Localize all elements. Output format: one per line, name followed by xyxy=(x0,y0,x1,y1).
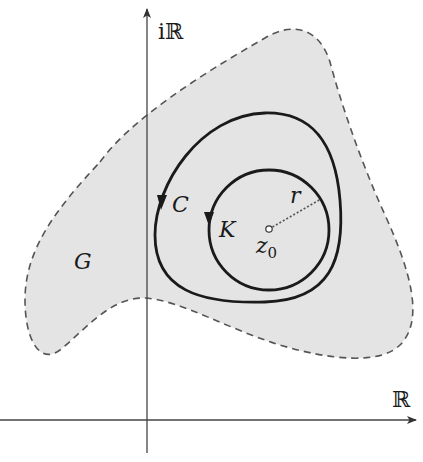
complex-plane-diagram: iℝ ℝ G C K r z0 xyxy=(0,0,423,462)
radius-label-r: r xyxy=(290,183,302,208)
imaginary-axis-label: iℝ xyxy=(158,19,184,44)
contour-label-c: C xyxy=(172,192,189,217)
center-point-z0 xyxy=(266,226,272,232)
circle-label-k: K xyxy=(218,217,237,242)
region-g xyxy=(25,29,413,358)
real-axis-label: ℝ xyxy=(392,387,411,412)
region-label-g: G xyxy=(74,249,92,274)
